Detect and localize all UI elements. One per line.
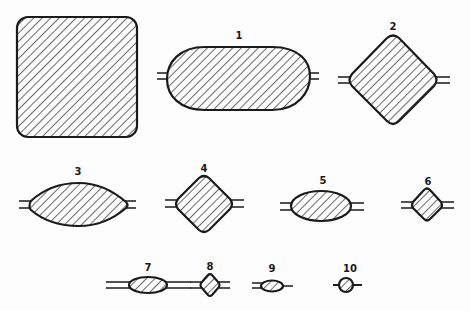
shape-square <box>17 17 137 137</box>
shape-4-label: 4 <box>201 163 208 174</box>
shape-3: 3 <box>19 166 136 226</box>
shape-5-label: 5 <box>320 175 327 186</box>
shape-6-label: 6 <box>425 176 432 187</box>
shape-8: 8 <box>190 261 230 296</box>
shape-7-label: 7 <box>145 262 152 273</box>
shape-10-label: 10 <box>343 263 357 274</box>
shape-2: 2 <box>338 21 450 124</box>
shape-4: 4 <box>165 163 244 232</box>
shape-1: 1 <box>157 30 319 110</box>
shape-5: 5 <box>280 175 364 221</box>
shape-6: 6 <box>401 176 454 221</box>
shape-10: 10 <box>333 263 362 292</box>
shape-9-label: 9 <box>269 263 276 274</box>
shape-8-label: 8 <box>207 261 214 272</box>
diagram-canvas: 1 2 3 4 5 6 7 8 <box>0 0 471 311</box>
shape-3-label: 3 <box>75 166 82 177</box>
shapes-diagram: 1 2 3 4 5 6 7 8 <box>0 0 471 311</box>
shape-9: 9 <box>252 263 293 292</box>
shape-1-label: 1 <box>236 30 243 41</box>
shape-2-label: 2 <box>390 21 397 32</box>
shape-7: 7 <box>106 262 191 293</box>
